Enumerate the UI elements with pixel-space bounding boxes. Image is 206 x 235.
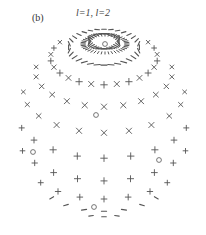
marker-stroke [131, 56, 136, 59]
marker-stroke [140, 204, 145, 205]
marker-stroke [69, 52, 73, 56]
marker-stroke [85, 49, 89, 50]
marker-stroke [64, 204, 69, 205]
marker-stroke [91, 50, 94, 52]
marker-stroke [154, 197, 158, 199]
sphere-diagram [0, 0, 206, 235]
marker-stroke [50, 197, 54, 199]
circle-marker [103, 42, 108, 47]
marker-stroke [76, 59, 82, 61]
marker-stroke [115, 63, 121, 64]
marker-stroke [119, 50, 122, 52]
marker-stroke [81, 61, 87, 63]
marker-stroke [98, 52, 99, 54]
marker-stroke [115, 30, 120, 31]
marker-stroke [77, 34, 81, 36]
marker-stroke [82, 46, 86, 47]
marker-stroke [121, 32, 126, 33]
marker-stroke [126, 59, 132, 61]
marker-stroke [83, 39, 87, 40]
marker-stroke [88, 30, 93, 31]
marker-stroke [82, 41, 86, 42]
marker-stroke [108, 52, 109, 54]
marker-stroke [87, 63, 93, 64]
circle-marker [31, 150, 36, 155]
marker-stroke [108, 34, 109, 36]
marker-stroke [121, 38, 125, 39]
marker-stroke [101, 52, 102, 54]
marker-stroke [83, 48, 87, 49]
marker-stroke [117, 50, 120, 52]
marker-stroke [94, 35, 96, 37]
marker-stroke [135, 39, 138, 42]
marker-stroke [124, 41, 128, 42]
marker-stroke [111, 52, 112, 54]
marker-stroke [114, 51, 116, 53]
marker-stroke [135, 52, 139, 56]
marker-stroke [70, 39, 73, 42]
marker-stroke [98, 34, 99, 36]
marker-stroke [121, 209, 126, 210]
marker-stroke [115, 216, 120, 217]
marker-stroke [89, 216, 94, 217]
marker-stroke [121, 49, 125, 50]
marker-stroke [94, 65, 100, 66]
marker-stroke [73, 36, 77, 39]
marker-stroke [72, 56, 77, 59]
marker-stroke [127, 34, 131, 36]
marker-stroke [131, 36, 135, 39]
marker-stroke [123, 39, 127, 40]
marker-stroke [123, 48, 127, 49]
marker-stroke [124, 46, 128, 47]
vector-field-markers [19, 29, 189, 217]
marker-stroke [82, 32, 87, 33]
circle-marker [94, 113, 99, 118]
marker-stroke [121, 61, 127, 63]
marker-stroke [101, 34, 102, 36]
marker-stroke [94, 51, 96, 53]
circle-marker [157, 158, 162, 163]
circle-marker [92, 205, 97, 210]
marker-stroke [88, 50, 91, 52]
marker-stroke [108, 65, 114, 66]
marker-stroke [82, 209, 87, 210]
